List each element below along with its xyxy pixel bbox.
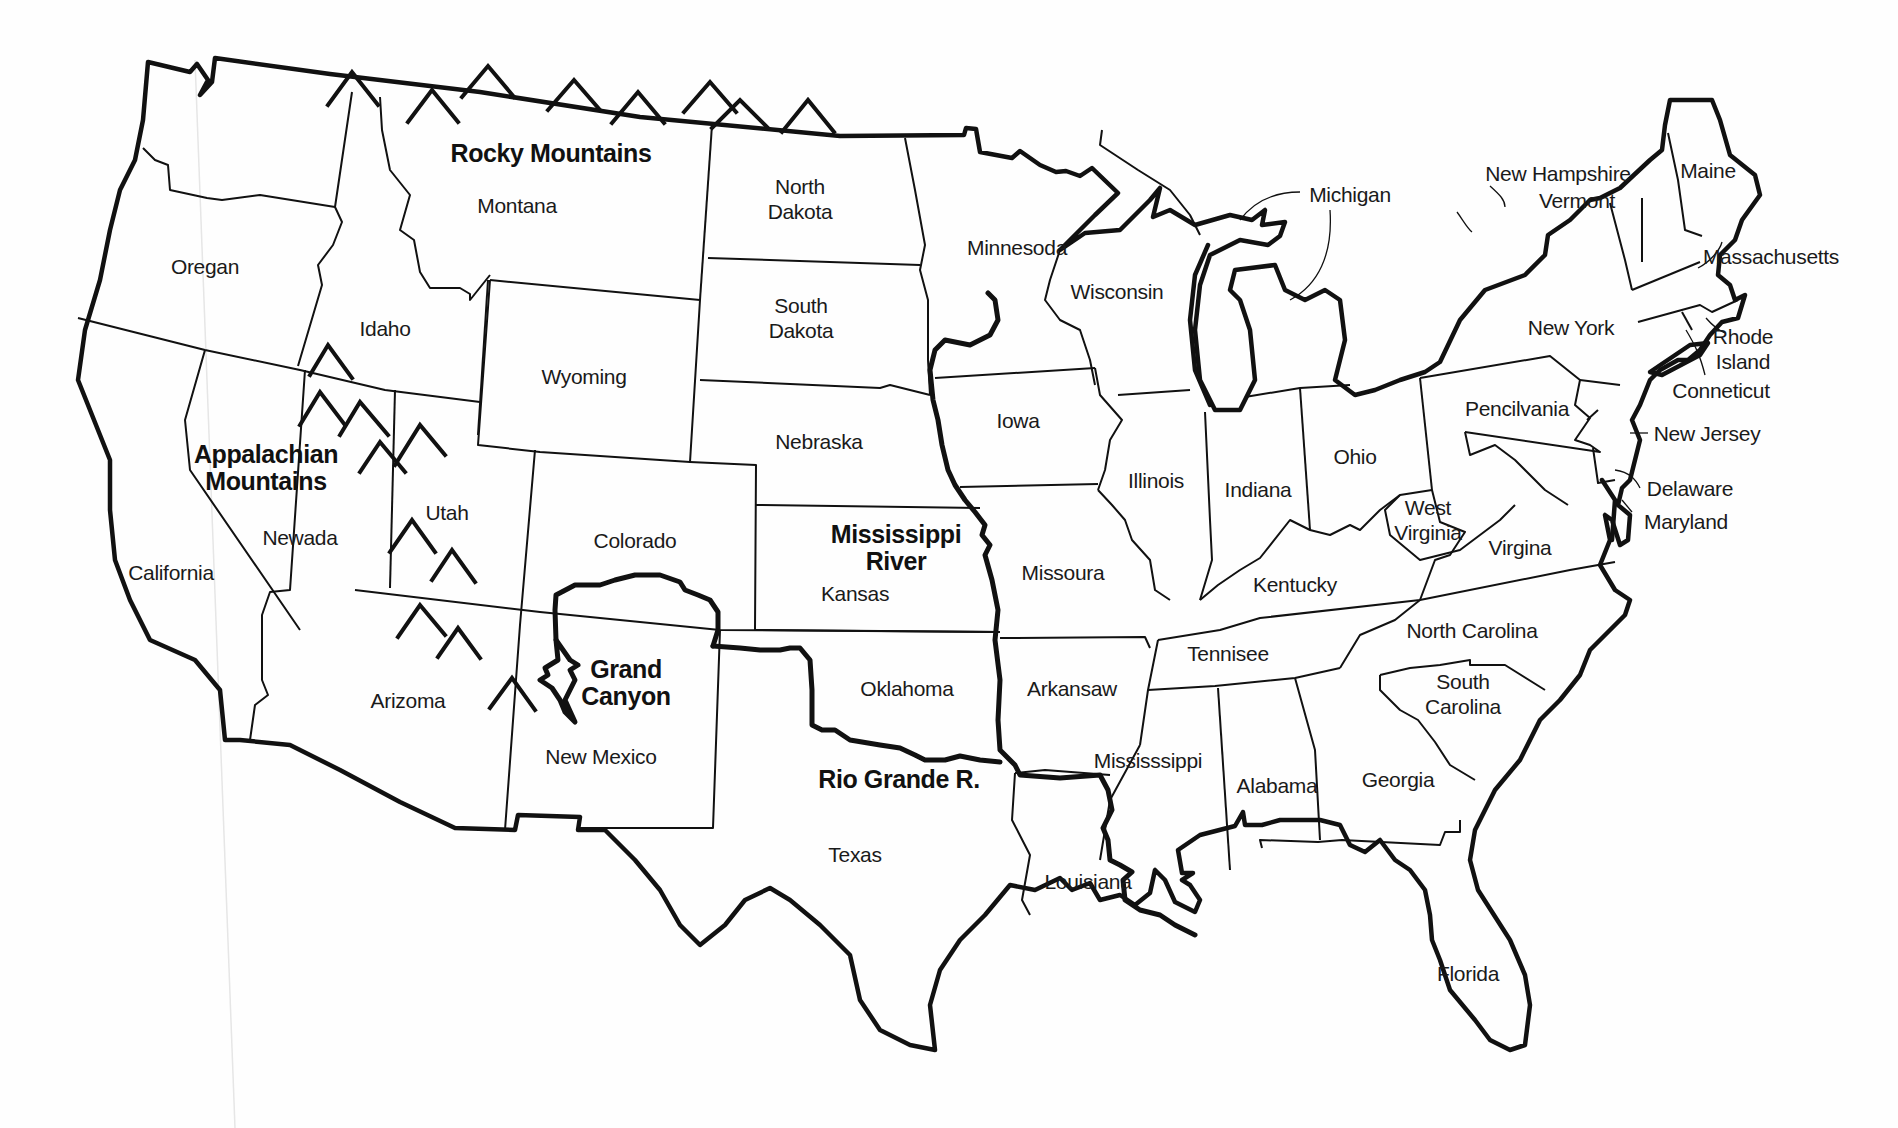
us-map: OreganCaliforniaNewadaIdahoMontanaWyomin… bbox=[0, 0, 1898, 1128]
states-label-wisconsin: Wisconsin bbox=[1071, 279, 1164, 304]
states-label-california: California bbox=[128, 560, 214, 585]
states-label-colorado: Colorado bbox=[594, 528, 677, 553]
states-label-oregan: Oregan bbox=[171, 254, 239, 279]
states-label-new-jersey: New Jersey bbox=[1654, 421, 1761, 446]
states-label-south-dakota: South Dakota bbox=[769, 293, 834, 343]
states-label-ohio: Ohio bbox=[1333, 444, 1376, 469]
states-label-nebraska: Nebraska bbox=[775, 429, 862, 454]
states-label-idaho: Idaho bbox=[359, 316, 410, 341]
states-label-massachusetts: Massachusetts bbox=[1703, 244, 1839, 269]
states-label-conneticut: Conneticut bbox=[1672, 378, 1769, 403]
features-label-rio-grande: Rio Grande R. bbox=[818, 766, 980, 793]
states-label-montana: Montana bbox=[477, 193, 557, 218]
grand-canyon-shape bbox=[540, 640, 578, 722]
states-label-kansas: Kansas bbox=[821, 581, 889, 606]
features-label-grand-canyon: Grand Canyon bbox=[581, 656, 670, 710]
states-label-kentucky: Kentucky bbox=[1253, 572, 1337, 597]
features-label-appalachian-mountains: Appalachian Mountains bbox=[194, 441, 338, 495]
states-label-indiana: Indiana bbox=[1225, 477, 1292, 502]
states-label-new-york: New York bbox=[1528, 315, 1614, 340]
states-label-mississsippi: Mississsippi bbox=[1094, 748, 1202, 773]
states-label-new-hampshire: New Hampshire bbox=[1485, 161, 1630, 186]
states-label-vermont: Vermont bbox=[1539, 188, 1615, 213]
scan-artifact-line bbox=[195, 60, 235, 1128]
mississippi-river-line bbox=[930, 293, 1195, 935]
grand-canyon-outline bbox=[555, 575, 718, 646]
features-label-mississippi-river: Mississippi River bbox=[831, 521, 961, 575]
states-label-maine: Maine bbox=[1680, 158, 1736, 183]
states-label-west-virginia: West Virginia bbox=[1394, 495, 1461, 545]
states-label-michigan: Michigan bbox=[1309, 182, 1391, 207]
states-label-maryland: Maryland bbox=[1644, 509, 1728, 534]
states-label-pencilvania: Pencilvania bbox=[1465, 396, 1569, 421]
states-label-missoura: Missoura bbox=[1022, 560, 1105, 585]
states-label-south-carolina: South Carolina bbox=[1425, 669, 1501, 719]
states-label-louisiana: Louisiana bbox=[1044, 869, 1131, 894]
states-label-new-mexico: New Mexico bbox=[545, 744, 656, 769]
rio-grande-line bbox=[713, 646, 1000, 762]
states-label-georgia: Georgia bbox=[1362, 767, 1435, 792]
states-label-alabama: Alabama bbox=[1237, 773, 1318, 798]
states-label-minnesoda: Minnesoda bbox=[967, 235, 1067, 260]
states-label-rhode-island: Rhode Island bbox=[1713, 324, 1773, 374]
states-label-delaware: Delaware bbox=[1647, 476, 1733, 501]
states-label-iowa: Iowa bbox=[996, 408, 1039, 433]
states-label-north-dakota: North Dakota bbox=[768, 174, 833, 224]
states-label-arkansaw: Arkansaw bbox=[1027, 676, 1117, 701]
states-label-tennisee: Tennisee bbox=[1187, 641, 1269, 666]
states-label-newada: Newada bbox=[262, 525, 337, 550]
states-label-oklahoma: Oklahoma bbox=[860, 676, 953, 701]
features-label-rocky-mountains: Rocky Mountains bbox=[451, 140, 652, 167]
states-label-wyoming: Wyoming bbox=[541, 364, 626, 389]
states-label-florida: Florida bbox=[1437, 961, 1499, 986]
states-label-arizoma: Arizoma bbox=[371, 688, 446, 713]
states-label-virgina: Virgina bbox=[1489, 535, 1552, 560]
states-label-illinois: Illinois bbox=[1128, 468, 1184, 493]
states-label-north-carolina: North Carolina bbox=[1406, 618, 1537, 643]
states-label-texas: Texas bbox=[828, 842, 881, 867]
leader-lines bbox=[1240, 186, 1725, 512]
states-label-utah: Utah bbox=[425, 500, 468, 525]
